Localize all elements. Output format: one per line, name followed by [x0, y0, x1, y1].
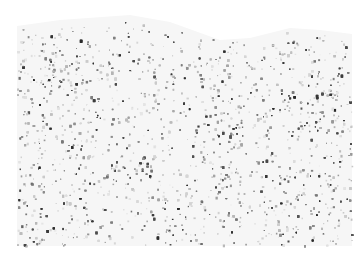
tissue-haze: [17, 15, 352, 246]
tissue-micrograph: [0, 0, 364, 266]
